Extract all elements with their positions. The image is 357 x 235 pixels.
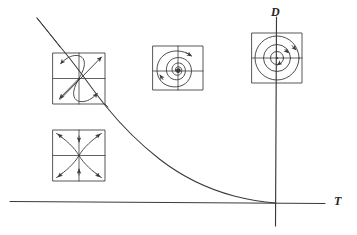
determinant-axis-line xyxy=(276,17,277,226)
saddle-arrow-ur xyxy=(96,134,100,138)
trace-axis-label: T xyxy=(334,195,341,207)
trace-axis-line xyxy=(10,202,325,204)
saddle-branch-ll xyxy=(57,156,80,178)
trajectory-upper-hook xyxy=(61,55,85,78)
saddle-branch-ur xyxy=(79,134,102,156)
center-fixed-point xyxy=(276,57,278,59)
spiral-fixed-point xyxy=(176,68,181,73)
inset-spiral-sink xyxy=(153,46,203,90)
saddle-arrow-lr xyxy=(96,174,100,178)
saddle-arrow-ll xyxy=(58,174,62,178)
trace-determinant-figure: D T xyxy=(0,0,357,235)
separatrix-down-left xyxy=(60,79,80,99)
inset-saddle xyxy=(53,130,105,181)
incoming-pointer xyxy=(37,18,60,47)
saddle-branch-ul xyxy=(57,134,80,156)
saddle-arrow-ul xyxy=(58,134,62,138)
spiral-trajectory xyxy=(157,51,191,87)
spiral-arrow-top xyxy=(186,53,192,57)
center-arrow-inner xyxy=(278,64,280,66)
spiral-arrow-left xyxy=(160,75,163,80)
determinant-axis-label: D xyxy=(271,6,280,18)
figure-canvas xyxy=(0,0,357,235)
inset-center xyxy=(252,33,302,83)
saddle-branch-lr xyxy=(79,156,102,178)
